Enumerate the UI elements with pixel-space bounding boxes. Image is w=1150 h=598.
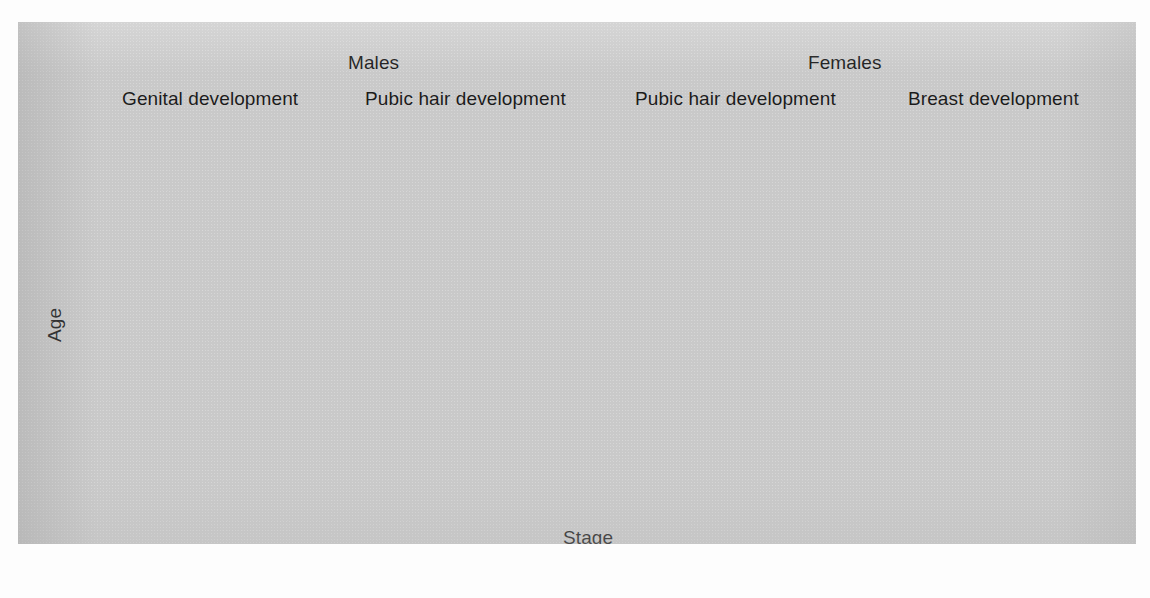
figure-panel: Males Females Genital development Pubic …	[18, 22, 1136, 544]
plot-area	[18, 22, 1136, 544]
